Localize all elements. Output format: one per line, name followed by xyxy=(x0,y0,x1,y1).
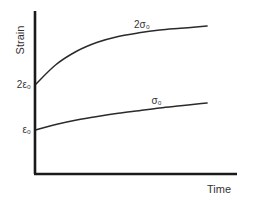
series-label-sigma0: σ₀ xyxy=(151,95,161,106)
x-axis-label: Time xyxy=(207,183,231,195)
series-line-2sigma0 xyxy=(35,26,208,85)
y-tick-label: 2ε₀ xyxy=(17,79,31,90)
strain-time-chart: Strain Time ε₀2ε₀ 2σ₀σ₀ xyxy=(0,0,264,202)
y-axis-label: Strain xyxy=(14,26,26,55)
series-line-sigma0 xyxy=(35,103,208,130)
series-label-2sigma0: 2σ₀ xyxy=(134,19,150,30)
y-tick-label: ε₀ xyxy=(22,124,31,135)
